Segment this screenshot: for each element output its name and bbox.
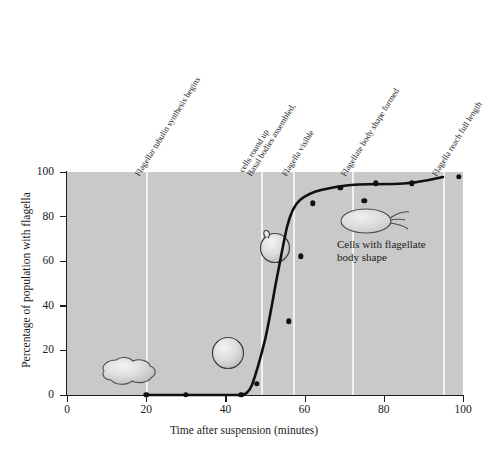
y-tick-label-0: 0 xyxy=(48,389,54,401)
y-tick-label-80: 80 xyxy=(43,211,55,223)
y-tick-label-60: 60 xyxy=(43,255,55,267)
event-label-flagellate-body-shape: Flagellate body shape formed xyxy=(339,86,401,178)
y-tick-80 xyxy=(60,216,67,217)
data-point-44 xyxy=(238,392,243,397)
plot-area xyxy=(67,172,463,395)
gridline-event-4 xyxy=(443,172,445,395)
y-axis-line xyxy=(66,171,67,396)
y-tick-40 xyxy=(60,305,67,306)
y-tick-20 xyxy=(60,350,67,351)
event-label-tubulin-synthesis: Flagellar tubulin synthesis begins xyxy=(133,75,203,178)
event-label-flagella-full-length: Flagella reach full length xyxy=(430,100,484,178)
data-point-30 xyxy=(183,392,188,397)
x-tick-label-60: 60 xyxy=(299,404,311,416)
x-axis-line xyxy=(66,395,464,396)
flagellate-body-shape-caption: Cells with flagellate body shape xyxy=(337,238,457,264)
y-axis-title: Percentage of population with flagella xyxy=(20,170,32,390)
x-tick-label-0: 0 xyxy=(64,404,70,416)
x-tick-60 xyxy=(305,396,306,402)
y-tick-label-20: 20 xyxy=(43,344,55,356)
y-tick-label-40: 40 xyxy=(43,300,55,312)
x-tick-100 xyxy=(463,396,464,402)
gridline-event-0 xyxy=(146,172,148,395)
x-axis-title: Time after suspension (minutes) xyxy=(0,424,488,436)
gridline-event-3 xyxy=(352,172,354,395)
event-label-flagella-visible: Flagella visible xyxy=(280,128,316,178)
x-tick-80 xyxy=(384,396,385,402)
y-tick-60 xyxy=(60,261,67,262)
x-tick-label-40: 40 xyxy=(220,404,232,416)
gridline-event-1 xyxy=(261,172,263,395)
x-tick-0 xyxy=(67,396,68,402)
y-tick-label-100: 100 xyxy=(37,166,54,178)
gridline-event-2 xyxy=(293,172,295,395)
x-tick-40 xyxy=(225,396,226,402)
x-tick-label-20: 20 xyxy=(140,404,152,416)
x-tick-label-100: 100 xyxy=(454,404,471,416)
data-point-20 xyxy=(143,392,148,397)
flagella-induction-chart: 0 20 40 60 80 100 0 20 40 60 80 100 Time… xyxy=(0,0,488,465)
x-tick-label-80: 80 xyxy=(378,404,390,416)
y-tick-0 xyxy=(60,395,67,396)
y-tick-100 xyxy=(60,172,67,173)
